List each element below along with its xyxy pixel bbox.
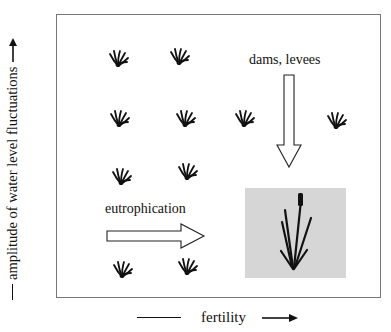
small-plant-icon (169, 46, 191, 66)
small-plant-icon (108, 48, 130, 68)
x-axis-label: fertility (137, 309, 298, 326)
small-plant-icon (177, 256, 199, 276)
small-plant-icon (112, 259, 134, 279)
small-plant-icon (109, 108, 131, 128)
y-axis-label: amplitude of water level fluctuations (4, 38, 21, 300)
small-plant-icon (234, 108, 256, 128)
small-plant-icon (111, 166, 133, 186)
reed-plant-box (245, 188, 346, 278)
hollow-down-arrow-icon (276, 74, 302, 169)
small-plant-icon (326, 110, 348, 130)
y-axis-label-text: amplitude of water level fluctuations (4, 67, 21, 280)
dams-levees-label: dams, levees (249, 52, 321, 68)
eutrophication-label: eutrophication (105, 201, 186, 217)
x-axis-label-text: fertility (201, 309, 246, 326)
small-plant-icon (177, 161, 199, 181)
hollow-right-arrow-icon (106, 223, 206, 249)
x-axis-line (137, 317, 181, 319)
y-axis-arrow-icon (8, 38, 18, 62)
x-axis-arrow-icon (262, 313, 298, 323)
reed-plant-icon (245, 188, 346, 278)
y-axis-line (12, 284, 14, 300)
small-plant-icon (175, 108, 197, 128)
